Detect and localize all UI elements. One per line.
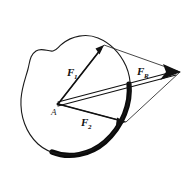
vector-f2-label-sub: 2	[87, 123, 92, 131]
force-parallelogram-figure: A F 1 F 2 F R	[0, 0, 192, 169]
figure-background	[0, 0, 192, 169]
vector-fr-label-sub: R	[143, 72, 149, 80]
point-a-label: A	[50, 107, 57, 117]
point-a-marker	[57, 103, 60, 106]
figure-canvas: A F 1 F 2 F R	[0, 0, 192, 169]
vector-f1-label-sub: 1	[74, 73, 78, 81]
